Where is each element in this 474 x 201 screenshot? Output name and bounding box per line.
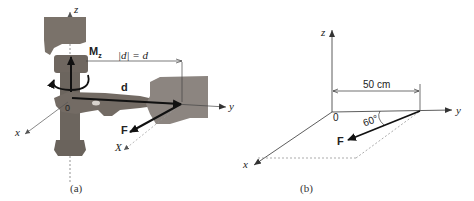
figure-a xyxy=(25,12,226,182)
wrench xyxy=(54,92,162,116)
z-axis-label-b: z xyxy=(321,27,325,38)
pipe-elbow xyxy=(44,17,86,55)
moment-label: Mz xyxy=(89,46,102,59)
hand xyxy=(146,76,208,124)
z-axis-label-a: z xyxy=(74,4,78,15)
force-label-a: F xyxy=(121,125,128,136)
origin-label-a: 0 xyxy=(65,104,70,113)
figure-b xyxy=(254,30,452,165)
force-vector-b xyxy=(348,111,420,140)
x-axis-label-b: x xyxy=(243,159,248,170)
y-axis-b xyxy=(332,110,452,112)
pipe-bottom-fitting xyxy=(54,140,86,156)
force-label-b: F xyxy=(337,136,344,147)
x-axis-label-a: x xyxy=(15,127,20,138)
caption-a: (a) xyxy=(70,182,82,194)
y-axis-label-b: y xyxy=(456,105,461,116)
distance-label: |d| = d xyxy=(118,50,148,61)
diagram-canvas xyxy=(0,0,474,201)
caption-b: (b) xyxy=(300,182,313,194)
X-line-label: X xyxy=(115,142,122,153)
x-axis-b xyxy=(254,112,332,165)
vector-d-label: d xyxy=(121,82,128,93)
origin-label-b: 0 xyxy=(333,113,339,123)
dimension-label: 50 cm xyxy=(363,80,390,90)
y-axis-label-a: y xyxy=(229,101,234,112)
